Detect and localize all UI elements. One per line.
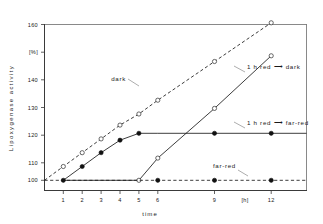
x-tick-label: 3	[99, 197, 102, 203]
red-to-dark-label: 1 h red ⟶ dark	[247, 63, 301, 70]
y-tick-label: 110	[28, 160, 38, 166]
y-tick-label: 120	[28, 132, 38, 138]
chart-svg: 160 [%] 140 130 120 110 100 Lipoxygenase…	[0, 0, 323, 224]
x-axis-unit: [h]	[241, 197, 248, 203]
x-tick-label: 6	[156, 197, 159, 203]
series-dark-markers	[61, 21, 273, 169]
dark-label: dark	[111, 75, 126, 82]
x-tick-label: 5	[137, 197, 140, 203]
x-tick-label: 1	[62, 197, 65, 203]
y-axis-ticks	[41, 25, 45, 181]
y-axis-title: Lipoxygenase activity	[8, 65, 14, 151]
x-tick-label: 12	[268, 197, 275, 203]
y-tick-label: 140	[28, 77, 38, 83]
x-axis-title: time	[142, 211, 158, 217]
series-red-to-far-red-markers	[61, 131, 273, 182]
series-red-to-far-red: 1 h red ⟶ far-red	[61, 119, 309, 182]
y-tick-label: 130	[28, 105, 38, 111]
x-tick-label: 4	[118, 197, 121, 203]
y-tick-label: 160	[28, 22, 38, 28]
chart-figure: 160 [%] 140 130 120 110 100 Lipoxygenase…	[0, 0, 323, 224]
y-tick-label: 100	[28, 177, 38, 183]
x-tick-label: 9	[213, 197, 216, 203]
x-axis-ticks	[63, 191, 271, 195]
y-axis-tick-labels: 160 [%] 140 130 120 110 100	[28, 22, 38, 184]
far-red-label: far-red	[213, 162, 236, 169]
x-tick-label: 2	[80, 197, 83, 203]
red-to-far-red-label: 1 h red ⟶ far-red	[247, 119, 309, 126]
y-tick-label: [%]	[29, 49, 38, 55]
x-axis-tick-labels: 1 2 3 4 5 6 9 12 [h]	[62, 197, 275, 203]
